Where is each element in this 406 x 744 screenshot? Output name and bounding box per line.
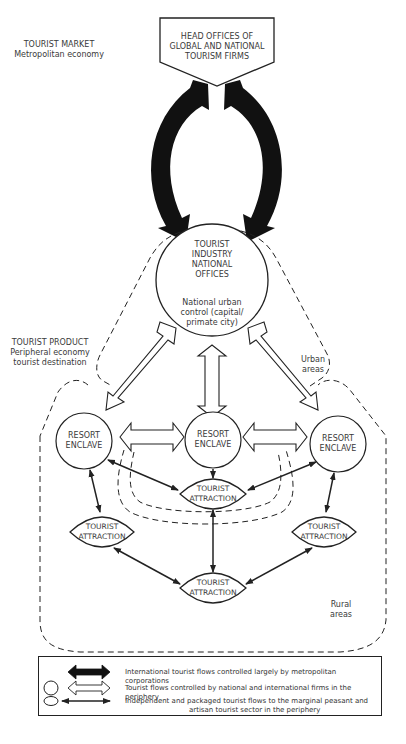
urban-areas-label: Urban areas — [298, 355, 328, 375]
resort-enclave-left-label: RESORT ENCLAVE — [56, 431, 112, 451]
tourist-market-label: TOURIST MARKET Metropolitan economy — [14, 40, 104, 60]
national-offices-line: TOURIST — [172, 240, 252, 250]
resort-line: RESORT — [185, 430, 241, 440]
black-flow-arrows — [151, 80, 282, 242]
resort-line: ENCLAVE — [185, 440, 241, 450]
head-offices-line: TOURISM FIRMS — [160, 52, 274, 62]
attraction-line: TOURIST — [70, 522, 134, 532]
diagram-canvas — [0, 0, 406, 744]
legend-text: Independent and packaged tourist flows t… — [125, 697, 368, 706]
resort-line: RESORT — [310, 434, 366, 444]
tourist-attraction-bottom-label: TOURIST ATTRACTION — [180, 578, 246, 598]
urban-control-line: primate city) — [167, 318, 257, 328]
tourist-product-sub: tourist destination — [10, 358, 90, 368]
resort-line: RESORT — [56, 431, 112, 441]
national-offices-line: OFFICES — [172, 270, 252, 280]
tourist-market-title: TOURIST MARKET — [14, 40, 104, 50]
rural-areas-line: Rural — [326, 600, 356, 610]
resort-enclave-right-label: RESORT ENCLAVE — [310, 434, 366, 454]
attraction-line: TOURIST — [180, 578, 246, 588]
tourist-product-title: TOURIST PRODUCT — [10, 338, 90, 348]
attraction-line: ATTRACTION — [180, 588, 246, 598]
tourist-product-sub: Peripheral economy — [10, 348, 90, 358]
tourist-product-label: TOURIST PRODUCT Peripheral economy touri… — [10, 338, 90, 368]
legend-box: International tourist flows controlled l… — [38, 656, 382, 716]
attraction-line: ATTRACTION — [292, 532, 356, 542]
attraction-line: ATTRACTION — [70, 532, 134, 542]
resort-line: ENCLAVE — [56, 441, 112, 451]
urban-areas-line: Urban — [298, 355, 328, 365]
resort-enclave-center-label: RESORT ENCLAVE — [185, 430, 241, 450]
attraction-line: TOURIST — [180, 484, 246, 494]
head-offices-line: GLOBAL AND NATIONAL — [160, 42, 274, 52]
tourist-attraction-left-label: TOURIST ATTRACTION — [70, 522, 134, 542]
urban-areas-line: areas — [298, 365, 328, 375]
rural-areas-label: Rural areas — [326, 600, 356, 620]
national-offices-line: INDUSTRY — [172, 250, 252, 260]
attraction-line: TOURIST — [292, 522, 356, 532]
national-offices-line: NATIONAL — [172, 260, 252, 270]
tourist-attraction-center-label: TOURIST ATTRACTION — [180, 484, 246, 504]
urban-control-line: National urban — [167, 298, 257, 308]
urban-control-line: control (capital/ — [167, 308, 257, 318]
tourist-market-subtitle: Metropolitan economy — [14, 50, 104, 60]
tourist-attraction-right-label: TOURIST ATTRACTION — [292, 522, 356, 542]
head-offices-label: HEAD OFFICES OF GLOBAL AND NATIONAL TOUR… — [160, 32, 274, 62]
national-offices-label: TOURIST INDUSTRY NATIONAL OFFICES — [172, 240, 252, 280]
national-urban-control-label: National urban control (capital/ primate… — [167, 298, 257, 328]
head-offices-line: HEAD OFFICES OF — [160, 32, 274, 42]
legend-text-continued: artisan tourist sector in the periphery — [189, 706, 320, 715]
rural-areas-line: areas — [326, 610, 356, 620]
resort-line: ENCLAVE — [310, 444, 366, 454]
attraction-line: ATTRACTION — [180, 494, 246, 504]
